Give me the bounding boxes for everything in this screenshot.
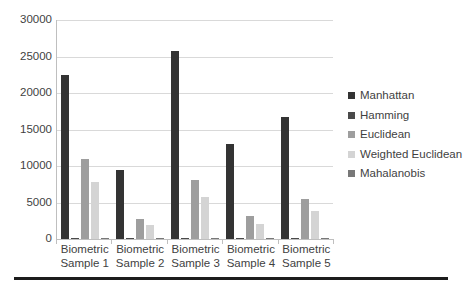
legend-label: Mahalanobis [360, 168, 425, 180]
legend-label: Weighted Euclidean [360, 149, 462, 161]
bar [146, 225, 154, 239]
x-axis-label: BiometricSample 1 [57, 243, 112, 270]
x-axis-labels: BiometricSample 1BiometricSample 2Biomet… [57, 243, 334, 270]
bar-group [223, 20, 278, 239]
x-axis-label-line2: Sample 5 [279, 257, 334, 271]
x-axis-label-line1: Biometric [116, 243, 164, 255]
bar [116, 170, 124, 239]
bar [81, 159, 89, 239]
bar [61, 75, 69, 239]
x-axis-label: BiometricSample 3 [168, 243, 223, 270]
bar-group [112, 20, 167, 239]
legend-item[interactable]: Mahalanobis [348, 164, 463, 184]
x-axis-label-line1: Biometric [227, 243, 275, 255]
x-axis-label-line1: Biometric [172, 243, 220, 255]
y-axis-tick-label: 20000 [2, 87, 52, 99]
x-axis-label-line2: Sample 2 [112, 257, 167, 271]
x-axis-label-line2: Sample 1 [57, 257, 112, 271]
legend-item[interactable]: Weighted Euclidean [348, 145, 463, 165]
bar [311, 211, 319, 239]
y-axis-tick-label: 15000 [2, 124, 52, 136]
y-axis-tick-label: 5000 [2, 197, 52, 209]
x-axis-label-line1: Biometric [282, 243, 330, 255]
bar [191, 180, 199, 239]
legend-swatch-icon [348, 131, 355, 138]
bar-group [57, 20, 112, 239]
x-axis-label: BiometricSample 2 [112, 243, 167, 270]
x-axis-label-line1: Biometric [61, 243, 109, 255]
legend-label: Euclidean [360, 129, 411, 141]
legend-item[interactable]: Manhattan [348, 86, 463, 106]
legend-swatch-icon [348, 92, 355, 99]
legend-swatch-icon [348, 112, 355, 119]
x-axis-label-line2: Sample 4 [223, 257, 278, 271]
y-axis-tick-label: 0 [2, 233, 52, 245]
plot-area [56, 20, 333, 239]
bars-layer [56, 20, 333, 239]
legend-swatch-icon [348, 151, 355, 158]
bar [201, 197, 209, 239]
bar-group [278, 20, 333, 239]
bar [246, 216, 254, 239]
bar [91, 182, 99, 239]
legend-swatch-icon [348, 170, 355, 177]
x-axis-label: BiometricSample 4 [223, 243, 278, 270]
bar [226, 144, 234, 239]
legend-label: Manhattan [360, 90, 414, 102]
legend-item[interactable]: Hamming [348, 106, 463, 126]
y-axis-tick-label: 10000 [2, 160, 52, 172]
bar [301, 199, 309, 240]
legend: ManhattanHammingEuclideanWeighted Euclid… [348, 86, 463, 184]
bar [281, 117, 289, 239]
y-axis-tick-label: 25000 [2, 51, 52, 63]
bar [256, 224, 264, 239]
legend-item[interactable]: Euclidean [348, 125, 463, 145]
bar-chart: 300002500020000150001000050000 Biometric… [0, 0, 465, 293]
x-axis-label-line2: Sample 3 [168, 257, 223, 271]
bar [171, 51, 179, 239]
x-axis-label: BiometricSample 5 [279, 243, 334, 270]
bottom-rule [14, 277, 448, 280]
y-axis-tick-labels: 300002500020000150001000050000 [0, 20, 52, 239]
y-axis-tick-label: 30000 [2, 14, 52, 26]
bar [136, 219, 144, 239]
bar-groups [57, 20, 333, 239]
legend-label: Hamming [360, 110, 409, 122]
bar-group [167, 20, 222, 239]
